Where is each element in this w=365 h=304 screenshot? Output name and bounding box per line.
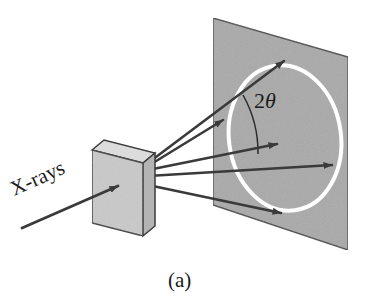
figure-caption: (a) xyxy=(168,268,191,292)
two-theta-label: 2θ xyxy=(254,88,276,113)
two-theta-number: 2 xyxy=(254,88,265,113)
xray-diffraction-diagram: X-rays 2θ (a) xyxy=(0,0,365,304)
figure-container: X-rays 2θ (a) xyxy=(0,0,365,304)
specimen-side-face xyxy=(143,153,155,236)
detector-screen xyxy=(213,18,348,250)
detector-screen-group xyxy=(213,18,348,250)
xrays-label: X-rays xyxy=(6,155,68,200)
specimen-slab-group xyxy=(92,140,155,236)
diffracted-ray-upper-inner xyxy=(148,120,223,166)
theta-glyph: θ xyxy=(265,88,276,113)
